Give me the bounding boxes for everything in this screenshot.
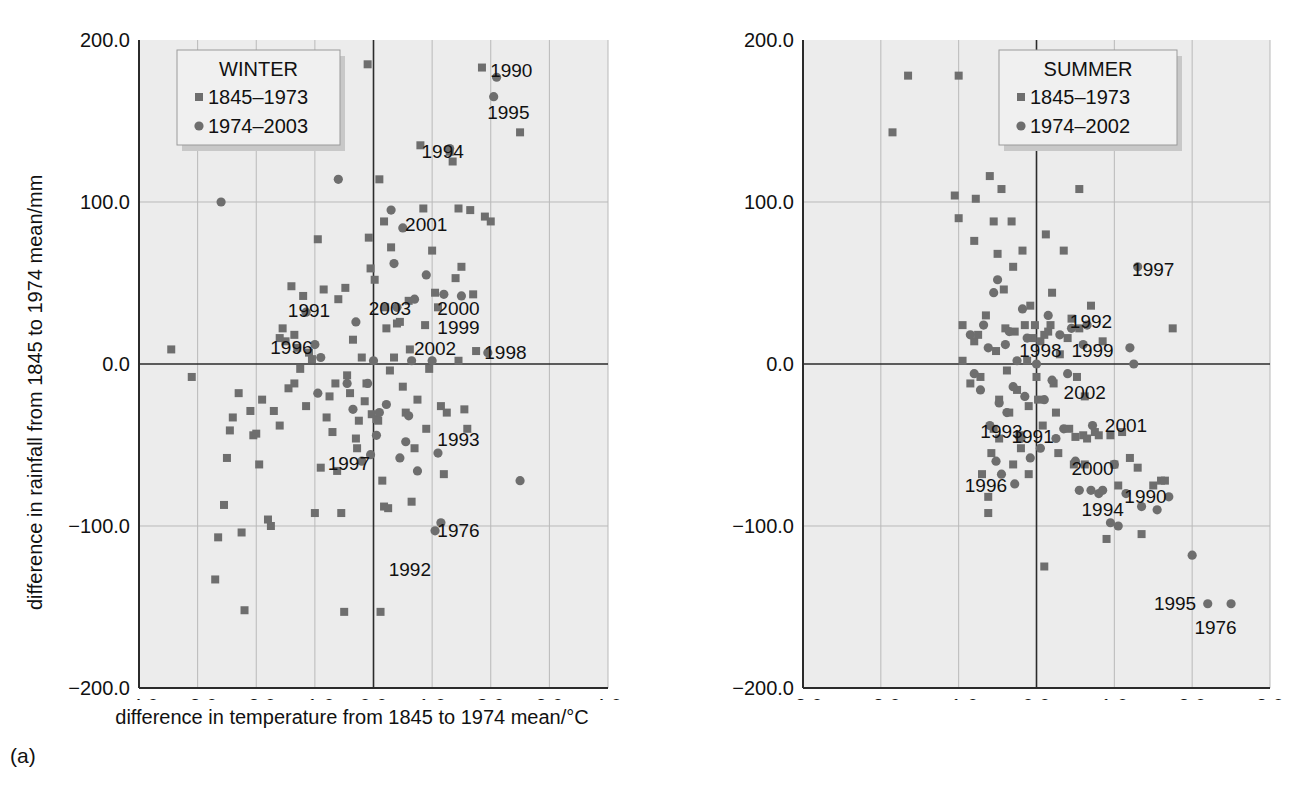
- data-point-circle: [1002, 408, 1011, 417]
- data-point-square: [1071, 433, 1079, 441]
- data-point-square: [982, 311, 990, 319]
- data-point-square: [343, 371, 351, 379]
- data-point-square: [951, 192, 959, 200]
- data-point-square: [1095, 431, 1103, 439]
- data-point-square: [371, 276, 379, 284]
- point-annotation-2002: 2002: [1064, 382, 1106, 403]
- data-point-square: [428, 247, 436, 255]
- data-point-square: [226, 426, 234, 434]
- data-point-circle: [389, 259, 398, 268]
- y-tick-label: 200.0: [744, 29, 794, 51]
- data-point-circle: [1129, 359, 1138, 368]
- data-point-square: [460, 405, 468, 413]
- point-annotation-1998: 1998: [484, 342, 526, 363]
- data-point-square: [1040, 331, 1048, 339]
- data-point-square: [1021, 321, 1029, 329]
- data-point-square: [1083, 435, 1091, 443]
- data-point-circle: [976, 385, 985, 394]
- data-point-square: [889, 128, 897, 136]
- data-point-square: [1000, 285, 1008, 293]
- legend: SUMMER1845–19731974–2002: [999, 50, 1182, 151]
- data-point-circle: [1005, 327, 1014, 336]
- data-point-square: [413, 396, 421, 404]
- data-point-square: [255, 460, 263, 468]
- data-point-square: [984, 509, 992, 517]
- data-point-square: [1018, 247, 1026, 255]
- data-point-square: [1003, 366, 1011, 374]
- y-tick-label: 100.0: [744, 191, 794, 213]
- data-point-circle: [1075, 486, 1084, 495]
- data-point-circle: [1001, 340, 1010, 349]
- point-annotation-1996: 1996: [270, 337, 312, 358]
- data-point-square: [296, 365, 304, 373]
- data-point-square: [1025, 402, 1033, 410]
- panel-letter-a: (a): [10, 744, 36, 768]
- data-point-square: [331, 379, 339, 387]
- data-point-square: [375, 175, 383, 183]
- data-point-square: [220, 501, 228, 509]
- x-tick-label: −2.0: [861, 695, 900, 700]
- data-point-square: [267, 522, 275, 530]
- data-point-square: [1073, 373, 1081, 381]
- data-point-circle: [984, 343, 993, 352]
- point-annotation-2001: 2001: [1105, 415, 1147, 436]
- point-annotation-2000: 2000: [1071, 458, 1113, 479]
- data-point-square: [516, 128, 524, 136]
- data-point-square: [1042, 230, 1050, 238]
- data-point-square: [380, 217, 388, 225]
- data-point-circle: [989, 288, 998, 297]
- data-point-square: [390, 354, 398, 362]
- point-annotation-1991: 1991: [288, 300, 330, 321]
- data-point-square: [1134, 464, 1142, 472]
- data-point-circle: [363, 379, 372, 388]
- scatter-plot-summer: 200.0100.00.0−100.0−200.0−3.0−2.0−1.00.0…: [655, 0, 1307, 700]
- x-tick-label: −3.0: [783, 695, 822, 700]
- data-point-circle: [995, 398, 1004, 407]
- point-annotation-1990: 1990: [1124, 486, 1166, 507]
- data-point-square: [478, 64, 486, 72]
- data-point-square: [1103, 535, 1111, 543]
- data-point-square: [364, 60, 372, 68]
- x-tick-label: 0.0: [1023, 695, 1051, 700]
- x-tick-label: 0.0: [360, 695, 388, 700]
- data-point-circle: [1125, 343, 1134, 352]
- data-point-circle: [991, 457, 1000, 466]
- point-annotation-1999: 1999: [1071, 340, 1113, 361]
- data-point-square: [974, 331, 982, 339]
- data-point-square: [994, 250, 1002, 258]
- data-point-square: [1054, 449, 1062, 457]
- data-point-square: [1126, 454, 1134, 462]
- data-point-square: [987, 449, 995, 457]
- legend: WINTER1845–19731974–2003: [177, 50, 345, 151]
- data-point-square: [167, 345, 175, 353]
- data-point-circle: [993, 275, 1002, 284]
- data-point-square: [972, 195, 980, 203]
- data-point-square: [246, 407, 254, 415]
- point-annotation-1991: 1991: [1011, 426, 1053, 447]
- data-point-square: [1138, 530, 1146, 538]
- data-point-circle: [1088, 421, 1097, 430]
- data-point-square: [431, 289, 439, 297]
- point-annotation-2003: 2003: [369, 298, 411, 319]
- data-point-square: [411, 444, 419, 452]
- point-annotation-1996: 1996: [965, 475, 1007, 496]
- point-annotation-1995: 1995: [1154, 593, 1196, 614]
- data-point-square: [966, 379, 974, 387]
- y-tick-label: 0.0: [102, 353, 130, 375]
- point-annotation-2000: 2000: [437, 298, 479, 319]
- data-point-square: [279, 324, 287, 332]
- data-point-square: [323, 413, 331, 421]
- data-point-circle: [1047, 376, 1056, 385]
- data-point-square: [1114, 482, 1122, 490]
- data-point-square: [472, 347, 480, 355]
- x-tick-label: 2.0: [1178, 695, 1206, 700]
- data-point-circle: [316, 353, 325, 362]
- data-point-square: [276, 422, 284, 430]
- x-tick-label: 1.0: [418, 695, 446, 700]
- x-tick-label: −4.0: [119, 695, 158, 700]
- point-annotation-1976: 1976: [1194, 617, 1236, 638]
- legend-title: WINTER: [219, 58, 298, 80]
- data-point-circle: [216, 197, 225, 206]
- data-point-square: [311, 509, 319, 517]
- point-annotation-2002: 2002: [414, 338, 456, 359]
